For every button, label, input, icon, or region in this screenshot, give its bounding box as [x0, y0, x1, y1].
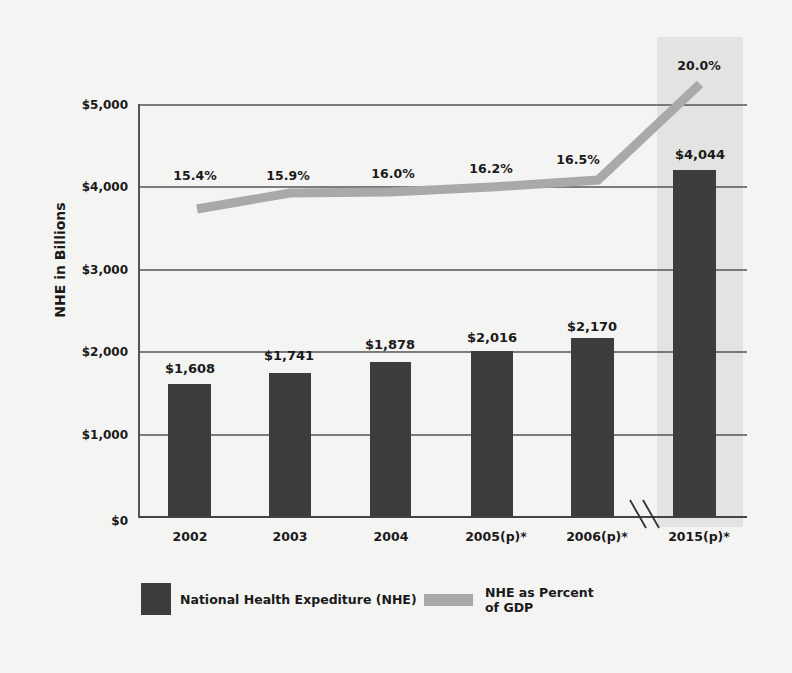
x-tick-labels: 2002 2003 2004 2005(p)* 2006(p)* 2015(p)… — [173, 529, 731, 544]
svg-text:$2,000: $2,000 — [82, 345, 128, 359]
svg-text:2005(p)*: 2005(p)* — [465, 529, 527, 544]
legend-item-gdp: NHE as Percent of GDP — [424, 585, 594, 615]
svg-text:2006(p)*: 2006(p)* — [566, 529, 628, 544]
svg-text:16.0%: 16.0% — [371, 166, 415, 181]
svg-text:2015(p)*: 2015(p)* — [668, 529, 730, 544]
legend-line-swatch — [424, 594, 473, 606]
svg-text:2003: 2003 — [273, 529, 308, 544]
bar-2005 — [471, 351, 513, 517]
svg-text:$4,044: $4,044 — [675, 147, 725, 162]
svg-text:2002: 2002 — [173, 529, 208, 544]
legend-nhe-label: National Health Expediture (NHE) — [180, 592, 417, 607]
svg-text:$1,878: $1,878 — [365, 337, 415, 352]
svg-text:2004: 2004 — [374, 529, 409, 544]
svg-text:15.4%: 15.4% — [173, 168, 217, 183]
svg-text:16.2%: 16.2% — [469, 161, 513, 176]
svg-text:$3,000: $3,000 — [82, 263, 128, 277]
svg-text:$2,016: $2,016 — [467, 330, 517, 345]
svg-text:$4,000: $4,000 — [82, 180, 128, 194]
bar-2002 — [168, 384, 211, 517]
bar-value-labels: $1,608 $1,741 $1,878 $2,016 $2,170 $4,04… — [165, 147, 725, 376]
chart: $5,000 $4,000 $3,000 $2,000 $1,000 $0 NH… — [0, 0, 792, 673]
svg-text:$1,608: $1,608 — [165, 361, 215, 376]
y-axis-title: NHE in Billions — [52, 202, 68, 317]
svg-text:$0: $0 — [111, 514, 128, 528]
svg-text:16.5%: 16.5% — [556, 152, 600, 167]
svg-text:$1,741: $1,741 — [264, 348, 314, 363]
svg-text:20.0%: 20.0% — [677, 58, 721, 73]
bar-2003 — [269, 373, 311, 517]
legend-gdp-label-line1: NHE as Percent — [485, 585, 594, 600]
legend: National Health Expediture (NHE) NHE as … — [133, 583, 753, 623]
legend-gdp-label-line2: of GDP — [485, 600, 594, 615]
bar-2004 — [370, 362, 411, 517]
legend-item-nhe: National Health Expediture (NHE) — [141, 583, 417, 615]
gridlines — [139, 105, 747, 435]
bar-2006 — [571, 338, 614, 517]
line-value-labels: 15.4% 15.9% 16.0% 16.2% 16.5% 20.0% — [173, 58, 721, 183]
bar-2015 — [673, 170, 716, 517]
svg-text:$5,000: $5,000 — [82, 98, 128, 112]
bars — [168, 170, 716, 517]
axis-break-icon — [630, 500, 659, 528]
legend-bar-swatch — [141, 583, 171, 615]
gdp-percent-line — [197, 84, 700, 209]
svg-text:$2,170: $2,170 — [567, 319, 617, 334]
svg-text:$1,000: $1,000 — [82, 428, 128, 442]
svg-text:15.9%: 15.9% — [266, 168, 310, 183]
y-tick-labels: $5,000 $4,000 $3,000 $2,000 $1,000 $0 — [82, 98, 128, 528]
